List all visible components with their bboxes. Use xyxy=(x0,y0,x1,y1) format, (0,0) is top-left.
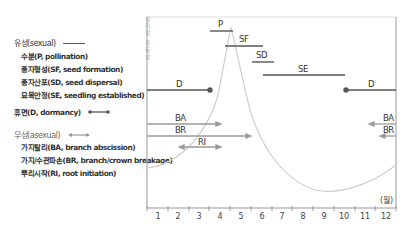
svg-text:7: 7 xyxy=(279,212,284,221)
label-BA2: BA xyxy=(383,113,394,123)
svg-text:3: 3 xyxy=(196,212,201,221)
svg-text:9: 9 xyxy=(321,212,326,221)
x-axis-labels: 1 2 3 4 5 6 7 8 9 10 11 12 xyxy=(155,212,391,221)
label-SF: SF xyxy=(239,34,249,44)
svg-text:12: 12 xyxy=(381,212,391,221)
label-BA1: BA xyxy=(175,113,186,123)
label-RI: RI xyxy=(198,137,205,147)
label-SE: SE xyxy=(298,64,308,74)
svg-text:5: 5 xyxy=(238,212,243,221)
label-D1: D xyxy=(176,79,183,89)
month-unit-label: (월) xyxy=(380,195,393,205)
label-BR1: BR xyxy=(175,125,186,135)
svg-text:1: 1 xyxy=(155,212,160,221)
dormancy-bars xyxy=(147,88,396,92)
label-D2: D xyxy=(368,79,375,89)
svg-text:2: 2 xyxy=(175,212,180,221)
svg-text:11: 11 xyxy=(360,212,370,221)
sexual-phase-bars xyxy=(210,31,345,75)
label-SD: SD xyxy=(256,50,268,60)
svg-text:6: 6 xyxy=(259,212,264,221)
svg-text:4: 4 xyxy=(217,212,222,221)
svg-text:10: 10 xyxy=(339,212,349,221)
chart-plot: 1 2 3 4 5 6 7 8 9 10 11 12 (월) P SF SD S… xyxy=(0,0,408,228)
activity-curve xyxy=(147,28,396,191)
label-P: P xyxy=(218,19,223,29)
label-BR2: BR xyxy=(383,125,394,135)
svg-text:8: 8 xyxy=(300,212,305,221)
